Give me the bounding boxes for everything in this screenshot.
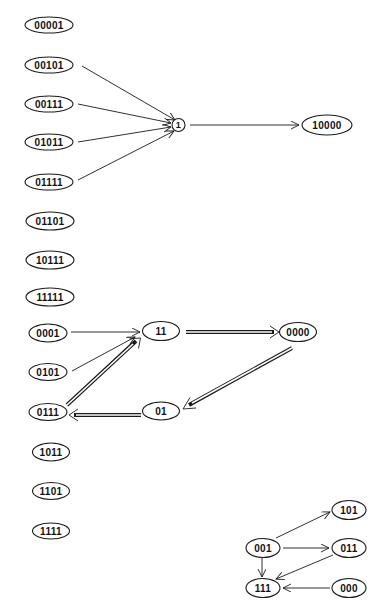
group1-edges xyxy=(78,66,299,180)
edge-01-to-0111 xyxy=(69,409,141,421)
node-001: 001 xyxy=(246,539,280,558)
group2-edges xyxy=(67,326,292,421)
node-label: 00101 xyxy=(34,60,63,71)
node-01111: 01111 xyxy=(25,174,73,190)
node-label: 10111 xyxy=(36,255,64,266)
edge-0000-to-01 xyxy=(183,348,292,409)
node-label: 00111 xyxy=(35,99,63,110)
edge-01111-to-1 xyxy=(78,131,174,180)
node-label: 1111 xyxy=(40,526,62,537)
node-label: 01111 xyxy=(35,177,63,188)
edge-001-to-101 xyxy=(276,512,330,538)
node-11: 11 xyxy=(143,322,180,341)
node-label: 111 xyxy=(255,583,272,594)
node-01101: 01101 xyxy=(26,212,74,230)
node-011: 011 xyxy=(332,539,366,558)
node-label: 00001 xyxy=(34,20,63,31)
node-label: 01 xyxy=(155,406,167,417)
node-label: 101 xyxy=(340,505,358,516)
node-00101: 00101 xyxy=(25,57,73,73)
edge-00111-to-1 xyxy=(78,104,171,123)
node-label: 1011 xyxy=(40,447,63,458)
node-label: 10000 xyxy=(312,120,341,131)
node-label: 0000 xyxy=(286,327,310,338)
node-label: 1 xyxy=(176,120,181,130)
node-label: 11 xyxy=(155,326,166,337)
node-10111: 10111 xyxy=(26,251,74,269)
node-111: 111 xyxy=(246,579,280,598)
edge-0111-to-11 xyxy=(67,338,141,405)
node-label: 0101 xyxy=(36,367,60,378)
node-01011: 01011 xyxy=(25,134,73,150)
node-10000: 10000 xyxy=(302,115,352,135)
edge-0101-to-11 xyxy=(72,337,135,371)
hub-node-1: 1 xyxy=(172,119,185,132)
node-11111: 11111 xyxy=(26,288,74,306)
node-101: 101 xyxy=(332,501,366,520)
node-1111: 1111 xyxy=(33,523,70,539)
node-0001: 0001 xyxy=(29,324,67,342)
node-label: 01101 xyxy=(36,216,65,227)
node-00001: 00001 xyxy=(25,17,73,33)
node-label: 001 xyxy=(254,543,272,554)
node-label: 000 xyxy=(340,583,358,594)
node-01: 01 xyxy=(143,402,180,420)
node-label: 01011 xyxy=(35,137,64,148)
node-label: 11111 xyxy=(36,292,63,303)
edge-11-to-0000 xyxy=(186,326,279,338)
node-000: 000 xyxy=(332,579,366,598)
node-1011: 1011 xyxy=(33,443,70,461)
node-label: 0111 xyxy=(37,407,59,418)
node-1101: 1101 xyxy=(33,483,70,500)
edge-011-to-111 xyxy=(276,555,333,579)
node-0111: 0111 xyxy=(29,404,67,421)
node-0000: 0000 xyxy=(280,323,317,342)
node-label: 1101 xyxy=(40,486,63,497)
edge-00101-to-1 xyxy=(82,66,175,120)
node-0101: 0101 xyxy=(29,364,67,381)
node-label: 011 xyxy=(340,543,357,554)
node-label: 0001 xyxy=(36,328,60,339)
node-00111: 00111 xyxy=(25,96,73,112)
state-transition-diagram: 00001 00101 00111 01011 01111 01101 1011… xyxy=(0,0,384,615)
